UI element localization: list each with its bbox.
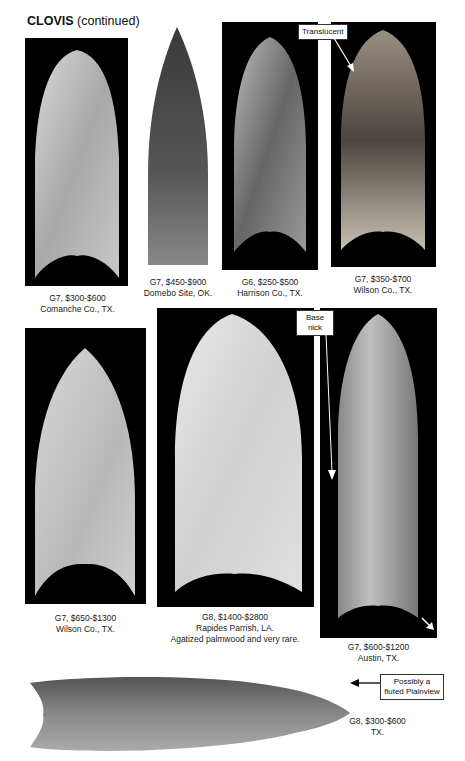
grade-value: G8, $300-$600 — [340, 716, 415, 727]
page-title: CLOVIS (continued) — [27, 14, 140, 28]
point-image-3 — [222, 22, 318, 270]
grade-value: G7, $300-$600 — [20, 293, 135, 304]
arrow-icon — [350, 675, 380, 691]
location: Rapides Parrish, LA. — [150, 623, 320, 634]
note: Agatized palmwood and very rare. — [150, 634, 320, 645]
arrow-icon — [320, 334, 340, 484]
caption-4: G7, $350-$700 Wilson Co., TX. — [328, 274, 438, 296]
title-bold: CLOVIS — [27, 14, 74, 28]
artifact-photo-2 — [140, 25, 215, 275]
artifact-photo-1 — [25, 38, 128, 286]
annotation-fluted-plainview: Possibly a fluted Plainview — [380, 674, 444, 700]
grade-value: G7, $350-$700 — [328, 274, 438, 285]
artifact-photo-3 — [222, 22, 318, 270]
grade-value: G8, $1400-$2800 — [150, 612, 320, 623]
location: Harrison Co., TX. — [215, 288, 325, 299]
location: TX. — [340, 727, 415, 738]
location: Austin, TX. — [320, 653, 437, 664]
grade-value: G7, $650-$1300 — [25, 613, 146, 624]
location: Wilson Co., TX. — [25, 624, 146, 635]
point-image-1 — [25, 38, 128, 286]
location: Comanche Co., TX. — [20, 304, 135, 315]
caption-5: G7, $650-$1300 Wilson Co., TX. — [25, 613, 146, 635]
grade-value: G7, $600-$1200 — [320, 642, 437, 653]
point-image-8 — [25, 675, 355, 755]
caption-7: G7, $600-$1200 Austin, TX. — [320, 642, 437, 664]
location: Wilson Co., TX. — [328, 285, 438, 296]
artifact-photo-6 — [157, 308, 314, 607]
arrow-icon — [330, 36, 360, 76]
title-rest: (continued) — [74, 14, 140, 28]
caption-1: G7, $300-$600 Comanche Co., TX. — [20, 293, 135, 315]
grade-value: G6, $250-$500 — [215, 277, 325, 288]
arrow-icon — [420, 616, 436, 632]
annotation-base-nick: Base nick — [296, 310, 334, 336]
point-image-6 — [157, 308, 314, 607]
caption-8: G8, $300-$600 TX. — [340, 716, 415, 738]
point-image-5 — [25, 328, 146, 604]
artifact-photo-8 — [25, 675, 355, 755]
artifact-photo-5 — [25, 328, 146, 604]
point-image-2 — [140, 25, 215, 275]
caption-6: G8, $1400-$2800 Rapides Parrish, LA. Aga… — [150, 612, 320, 645]
caption-3: G6, $250-$500 Harrison Co., TX. — [215, 277, 325, 299]
